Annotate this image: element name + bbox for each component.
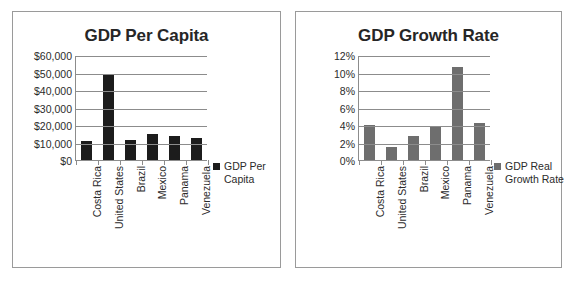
x-axis-category-label: United States [386,160,397,234]
chart-body: $0$10,000$20,000$30,000$40,000$50,000$60… [13,56,280,161]
plot-area: Costa RicaUnited StatesBrazilMexicoPanam… [358,56,490,161]
x-axis-tick [208,160,209,165]
y-axis-tick-label: $30,000 [34,104,72,114]
x-axis-tick [491,160,492,165]
legend-swatch-icon [213,163,220,170]
y-axis-tick-label: 6% [340,104,355,114]
gridline [359,144,490,145]
bar[interactable] [386,147,397,160]
chart-panel-gdp-growth-rate: GDP Growth Rate 0%2%4%6%8%10%12% Costa R… [295,11,562,268]
x-axis-category-label: Venezuela [191,160,202,234]
bar[interactable] [364,125,375,160]
chart-body: 0%2%4%6%8%10%12% Costa RicaUnited States… [296,56,561,161]
category-text: Brazil [136,166,147,192]
x-axis-category-label: Brazil [408,160,419,234]
gridline [359,56,490,57]
gridline [76,56,207,57]
y-axis-tick-label: 0% [340,156,355,166]
category-text: United States [397,166,408,229]
y-axis-labels: $0$10,000$20,000$30,000$40,000$50,000$60… [13,56,75,161]
y-axis-tick-label: $10,000 [34,139,72,149]
x-axis-category-label: Panama [452,160,463,234]
category-text: United States [114,166,125,229]
y-axis-tick-label: $60,000 [34,51,72,61]
bar[interactable] [103,75,114,160]
chart-legend: GDP Real Growth Rate [494,160,565,186]
y-axis-tick-label: 10% [334,69,355,79]
x-axis-category-label: Mexico [147,160,158,234]
plot-area-wrapper: Costa RicaUnited StatesBrazilMexicoPanam… [75,56,207,161]
x-axis-category-labels: Costa RicaUnited StatesBrazilMexicoPanam… [359,160,490,234]
y-axis-tick-label: 4% [340,121,355,131]
y-axis-tick-label: 8% [340,86,355,96]
category-text: Mexico [440,166,451,199]
chart-legend: GDP Per Capita [213,160,284,186]
y-axis-tick-label: $40,000 [34,86,72,96]
category-text: Panama [179,166,190,205]
bar[interactable] [474,123,485,160]
bar[interactable] [191,138,202,160]
y-axis-tick-label: $20,000 [34,121,72,131]
category-text: Costa Rica [375,166,386,217]
gridline [76,144,207,145]
chart-title: GDP Growth Rate [296,26,561,46]
x-axis-category-label: Venezuela [474,160,485,234]
gridline [76,126,207,127]
x-axis-category-label: Costa Rica [81,160,92,234]
gridline [359,126,490,127]
bar[interactable] [408,136,419,160]
x-axis-category-label: Panama [169,160,180,234]
category-text: Costa Rica [92,166,103,217]
x-axis-category-label: Mexico [430,160,441,234]
bar[interactable] [452,67,463,160]
x-axis-category-label: United States [103,160,114,234]
gridline [359,109,490,110]
y-axis-tick-label: 12% [334,51,355,61]
y-axis-tick-label: $50,000 [34,69,72,79]
chart-panel-gdp-per-capita: GDP Per Capita $0$10,000$20,000$30,000$4… [12,11,281,268]
category-text: Panama [462,166,473,205]
y-axis-tick-label: 2% [340,139,355,149]
category-text: Mexico [157,166,168,199]
x-axis-category-labels: Costa RicaUnited StatesBrazilMexicoPanam… [76,160,207,234]
y-axis-tick-label: $0 [60,156,72,166]
category-text: Venezuela [201,166,212,215]
gridline [76,109,207,110]
chart-page: GDP Per Capita $0$10,000$20,000$30,000$4… [0,0,580,289]
plot-area: Costa RicaUnited StatesBrazilMexicoPanam… [75,56,207,161]
chart-title: GDP Per Capita [13,26,280,46]
legend-label: GDP Per Capita [224,160,284,186]
gridline [76,91,207,92]
bar[interactable] [169,136,180,160]
bar[interactable] [147,134,158,160]
x-axis-category-label: Brazil [125,160,136,234]
plot-area-wrapper: Costa RicaUnited StatesBrazilMexicoPanam… [358,56,490,161]
legend-label: GDP Real Growth Rate [505,160,565,186]
gridline [359,74,490,75]
y-axis-labels: 0%2%4%6%8%10%12% [296,56,358,161]
legend-swatch-icon [494,163,501,170]
x-axis-category-label: Costa Rica [364,160,375,234]
gridline [359,91,490,92]
category-text: Brazil [419,166,430,192]
gridline [76,74,207,75]
